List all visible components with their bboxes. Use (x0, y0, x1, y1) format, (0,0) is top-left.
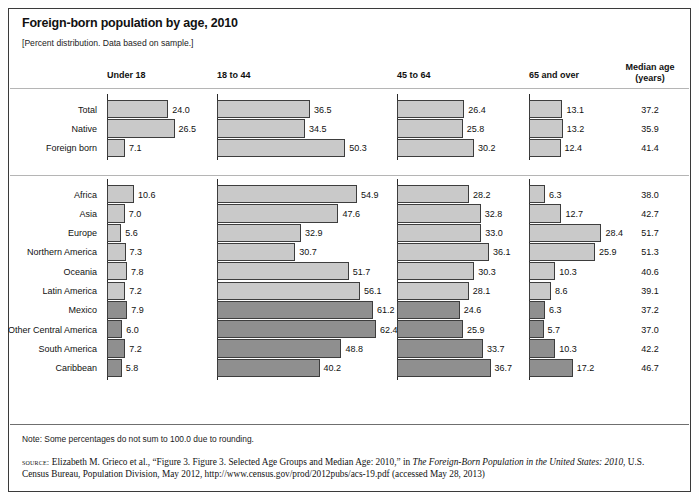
row-label: Foreign born (0, 143, 103, 153)
median-age-value: 51.7 (612, 228, 688, 238)
bar-65-and-over (529, 119, 563, 137)
row-label: Africa (0, 190, 103, 200)
bar-value-45-to-64: 33.7 (487, 344, 505, 354)
bar-65-and-over (529, 339, 555, 357)
bar-45-to-64 (397, 339, 483, 357)
bar-value-45-to-64: 30.2 (478, 143, 496, 153)
median-age-value: 51.3 (612, 247, 688, 257)
bar-18-to-44 (217, 119, 305, 137)
bar-value-65-and-over: 12.4 (565, 143, 583, 153)
row-label: Caribbean (0, 363, 103, 373)
bar-value-under-18: 24.0 (172, 105, 190, 115)
bar-under-18 (107, 262, 127, 280)
bar-65-and-over (529, 282, 551, 300)
bar-18-to-44 (217, 359, 320, 377)
bar-45-to-64 (397, 320, 463, 338)
bar-value-under-18: 7.9 (131, 305, 144, 315)
figure-container: Foreign-born population by age, 2010 [Pe… (0, 0, 699, 500)
bar-value-18-to-44: 56.1 (364, 286, 382, 296)
bar-45-to-64 (397, 139, 474, 157)
bar-value-18-to-44: 50.3 (349, 143, 367, 153)
bar-value-18-to-44: 61.2 (377, 305, 395, 315)
bar-value-65-and-over: 13.2 (567, 124, 585, 134)
bar-65-and-over (529, 301, 545, 319)
section-divider (10, 424, 689, 425)
bar-65-and-over (529, 262, 555, 280)
bar-value-45-to-64: 32.8 (485, 209, 503, 219)
bar-18-to-44 (217, 320, 376, 338)
bar-45-to-64 (397, 301, 460, 319)
bar-value-45-to-64: 30.3 (478, 267, 496, 277)
median-age-value: 39.1 (612, 286, 688, 296)
bar-value-65-and-over: 13.1 (566, 105, 584, 115)
bar-45-to-64 (397, 119, 463, 137)
bar-under-18 (107, 282, 125, 300)
bar-value-45-to-64: 24.6 (464, 305, 482, 315)
bar-under-18 (107, 185, 134, 203)
row-label: Native (0, 124, 103, 134)
row-label: Northern America (0, 247, 103, 257)
figure-source: source: Elizabeth M. Grieco et al., “Fig… (22, 456, 670, 481)
bar-65-and-over (529, 100, 562, 118)
figure-note: Note: Some percentages do not sum to 100… (22, 434, 254, 444)
bar-18-to-44 (217, 204, 338, 222)
bar-value-18-to-44: 32.9 (305, 228, 323, 238)
bar-value-under-18: 7.8 (131, 267, 144, 277)
median-age-value: 46.7 (612, 363, 688, 373)
bar-value-65-and-over: 17.2 (577, 363, 595, 373)
bar-65-and-over (529, 320, 544, 338)
row-label: Latin America (0, 286, 103, 296)
source-text-part-1: Elizabeth M. Grieco et al., “Figure 3. F… (49, 457, 412, 467)
bar-18-to-44 (217, 339, 341, 357)
bar-value-under-18: 6.0 (126, 325, 139, 335)
bar-value-65-and-over: 12.7 (565, 209, 583, 219)
bar-45-to-64 (397, 359, 491, 377)
row-label: South America (0, 344, 103, 354)
bar-65-and-over (529, 243, 595, 261)
bar-value-18-to-44: 47.6 (342, 209, 360, 219)
bar-45-to-64 (397, 204, 481, 222)
bar-under-18 (107, 301, 127, 319)
bar-value-under-18: 7.0 (129, 209, 142, 219)
bar-value-under-18: 5.8 (126, 363, 139, 373)
bar-18-to-44 (217, 185, 357, 203)
bar-65-and-over (529, 224, 601, 242)
source-title-italic: The Foreign-Born Population in the Unite… (412, 457, 623, 467)
median-age-value: 37.2 (612, 305, 688, 315)
bar-45-to-64 (397, 100, 464, 118)
bar-value-45-to-64: 25.9 (467, 325, 485, 335)
bar-value-18-to-44: 40.2 (324, 363, 342, 373)
bar-under-18 (107, 339, 125, 357)
bar-value-45-to-64: 25.8 (467, 124, 485, 134)
bar-value-under-18: 5.6 (125, 228, 138, 238)
bar-under-18 (107, 224, 121, 242)
bar-value-65-and-over: 8.6 (555, 286, 568, 296)
bar-value-under-18: 7.1 (129, 143, 142, 153)
source-label: source: (22, 457, 49, 467)
bar-18-to-44 (217, 100, 310, 118)
median-age-value: 41.4 (612, 143, 688, 153)
row-label: Total (0, 105, 103, 115)
row-label: Asia (0, 209, 103, 219)
bar-18-to-44 (217, 243, 295, 261)
bar-65-and-over (529, 204, 561, 222)
bar-value-45-to-64: 26.4 (468, 105, 486, 115)
section-divider (10, 175, 689, 176)
median-age-value: 42.2 (612, 344, 688, 354)
bar-18-to-44 (217, 301, 373, 319)
bar-value-18-to-44: 62.4 (380, 325, 398, 335)
median-age-value: 38.0 (612, 190, 688, 200)
bar-65-and-over (529, 359, 573, 377)
bar-value-65-and-over: 6.3 (549, 190, 562, 200)
row-label: Mexico (0, 305, 103, 315)
bar-65-and-over (529, 139, 561, 157)
bar-value-under-18: 7.2 (129, 286, 142, 296)
row-label: Oceania (0, 267, 103, 277)
bar-45-to-64 (397, 224, 481, 242)
row-label: Other Central America (0, 325, 103, 335)
bar-value-under-18: 26.5 (179, 124, 197, 134)
bar-value-18-to-44: 36.5 (314, 105, 332, 115)
bar-45-to-64 (397, 185, 469, 203)
bar-value-under-18: 10.6 (138, 190, 156, 200)
bar-under-18 (107, 100, 168, 118)
